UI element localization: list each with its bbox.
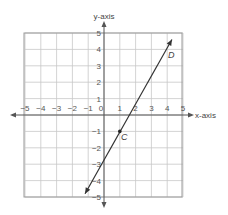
x-tick-label: 5 — [181, 104, 186, 113]
x-tick-label: 1 — [118, 104, 123, 113]
y-axis-top-arrow-icon — [102, 21, 107, 27]
y-tick-label: 2 — [97, 78, 102, 87]
x-tick-label: 0 — [99, 104, 104, 113]
x-tick-label: −5 — [20, 104, 30, 113]
y-tick-label: −5 — [92, 193, 102, 202]
x-tick-label: 4 — [165, 104, 170, 113]
x-tick-label: 2 — [133, 104, 138, 113]
x-axis-left-arrow-icon — [10, 113, 16, 118]
y-tick-label: 5 — [97, 29, 102, 38]
x-tick-label: −3 — [52, 104, 62, 113]
x-tick-label: −4 — [36, 104, 46, 113]
point-d-label: D — [168, 50, 175, 60]
point-c-label: C — [121, 132, 128, 142]
x-tick-label: −1 — [84, 104, 94, 113]
x-tick-label: −2 — [68, 104, 78, 113]
x-axis-right-arrow-icon — [188, 113, 194, 118]
y-axis-bottom-arrow-icon — [102, 202, 107, 208]
x-axis-label: x-axis — [195, 111, 216, 120]
x-tick-label: 3 — [149, 104, 154, 113]
y-tick-label: 1 — [97, 95, 102, 104]
y-axis-label: y-axis — [94, 12, 115, 21]
coordinate-plane: −5−4−3−2−101234554321−1−2−3−4−5 y-axis x… — [0, 0, 228, 215]
y-tick-label: −1 — [92, 127, 102, 136]
y-tick-label: 3 — [97, 62, 102, 71]
y-tick-label: 4 — [97, 45, 102, 54]
y-tick-label: −2 — [92, 144, 102, 153]
